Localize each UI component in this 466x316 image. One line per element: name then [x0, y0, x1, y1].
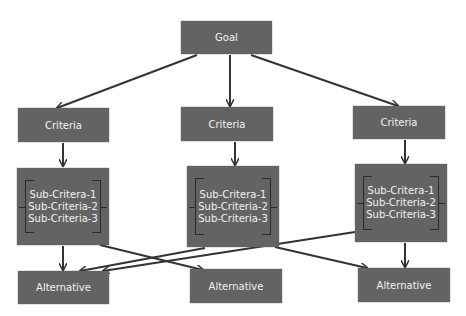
criteria-label: Criteria: [381, 117, 418, 128]
subcriteria-item: Sub-Criteria-2: [198, 201, 268, 213]
left-bracket: [25, 180, 34, 233]
right-bracket: [92, 180, 101, 233]
subcriteria-item: Sub-Criteria-2: [28, 201, 98, 213]
alternative-node-2: Alternative: [190, 269, 282, 303]
subcriteria-item: Sub-Criteria-3: [366, 209, 436, 221]
left-bracket: [363, 176, 372, 230]
subcriteria-item: Sub-Critera-1: [368, 185, 435, 197]
subcriteria-item: Sub-Critera-1: [30, 189, 97, 201]
subcriteria-item: Sub-Criteria-2: [366, 197, 436, 209]
left-bracket: [195, 178, 204, 235]
criteria-node-2: Criteria: [181, 107, 273, 141]
ahp-hierarchy-diagram: Goal Criteria Criteria Criteria Sub-Crit…: [0, 0, 466, 316]
goal-label: Goal: [215, 32, 238, 43]
subcriteria-item: Sub-Criteria-3: [28, 213, 98, 225]
alternative-node-3: Alternative: [358, 268, 450, 302]
alternative-label: Alternative: [209, 281, 264, 292]
criteria-label: Criteria: [209, 119, 246, 130]
criteria-node-1: Criteria: [18, 108, 109, 142]
bracket-tick: [189, 207, 195, 208]
bracket-tick: [19, 207, 25, 208]
right-bracket: [262, 178, 271, 235]
criteria-label: Criteria: [45, 120, 82, 131]
bracket-tick: [101, 207, 107, 208]
subcriteria-item: Sub-Criteria-3: [198, 213, 268, 225]
alternative-node-1: Alternative: [18, 271, 109, 304]
goal-node: Goal: [181, 21, 272, 54]
right-bracket: [430, 176, 439, 230]
subcriteria-item: Sub-Critera-1: [200, 189, 267, 201]
subcriteria-node-3: Sub-Critera-1 Sub-Criteria-2 Sub-Criteri…: [355, 164, 447, 242]
alternative-label: Alternative: [377, 280, 432, 291]
subcriteria-node-1: Sub-Critera-1 Sub-Criteria-2 Sub-Criteri…: [17, 168, 109, 245]
bracket-tick: [271, 207, 277, 208]
alternative-label: Alternative: [36, 282, 91, 293]
subcriteria-node-2: Sub-Critera-1 Sub-Criteria-2 Sub-Criteri…: [187, 166, 279, 247]
criteria-node-3: Criteria: [353, 106, 445, 139]
bracket-tick: [439, 203, 445, 204]
bracket-tick: [357, 203, 363, 204]
